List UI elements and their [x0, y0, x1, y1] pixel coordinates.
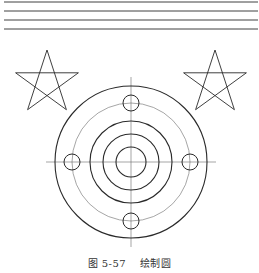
figure-caption: 图 5-57 绘制圆 [0, 255, 259, 270]
caption-title: 绘制圆 [140, 258, 172, 269]
concentric-circle-target [46, 77, 216, 247]
parallel-lines [4, 2, 258, 29]
right-star-shape [184, 50, 247, 110]
caption-number: 图 5-57 [88, 258, 127, 269]
left-star-shape [16, 50, 79, 110]
drawing-canvas [0, 0, 259, 273]
